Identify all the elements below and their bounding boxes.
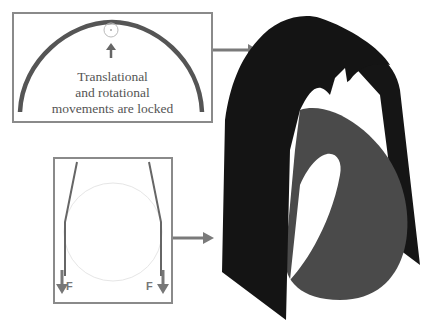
force-arrow-right-icon xyxy=(157,270,169,294)
ring-outline xyxy=(64,183,162,281)
strip-right xyxy=(149,162,161,276)
arrow-right-icon xyxy=(173,232,214,244)
strip-left xyxy=(65,162,77,276)
band-3d-model xyxy=(222,16,420,320)
force-arrow-left-icon xyxy=(56,270,68,294)
up-arrow-icon xyxy=(106,43,116,58)
diagram-graphics xyxy=(0,0,427,333)
arch-shape xyxy=(20,22,202,112)
